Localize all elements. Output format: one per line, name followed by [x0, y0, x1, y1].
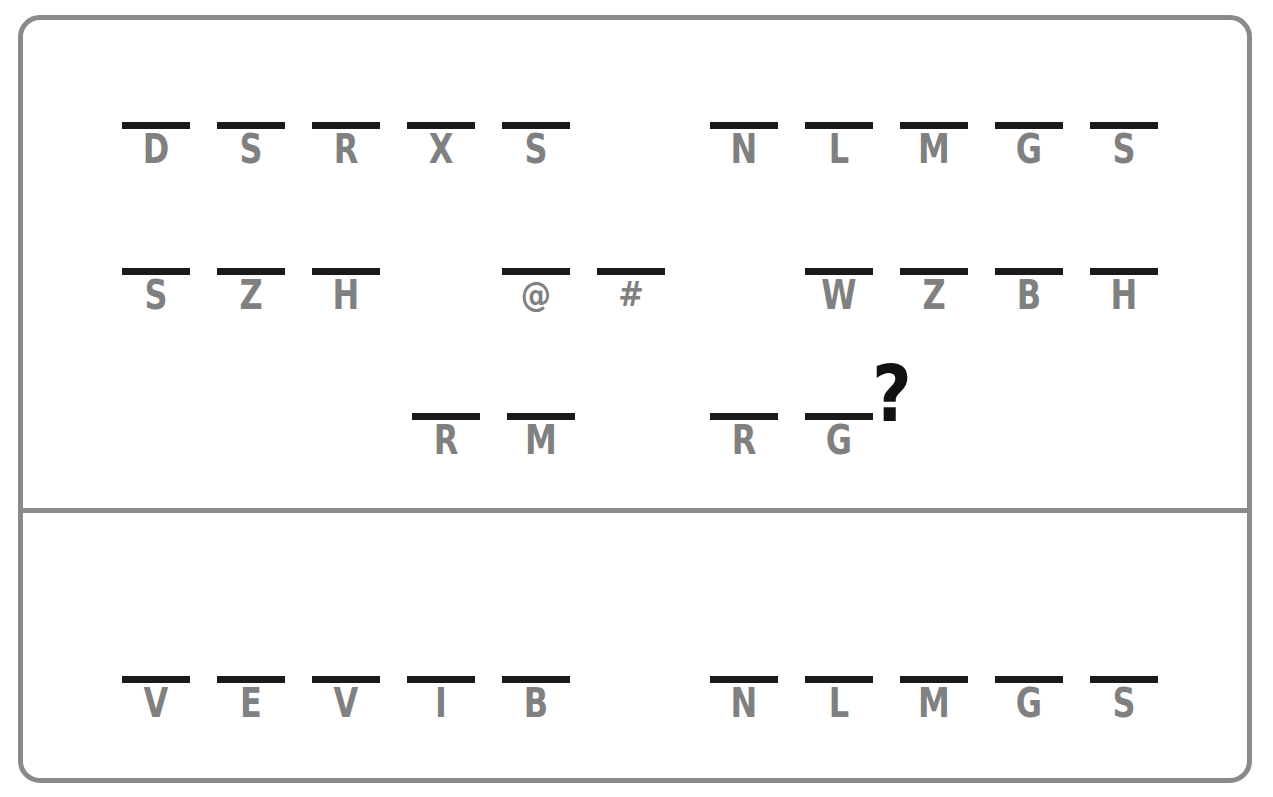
slot-r2-l4-empty: [407, 268, 475, 348]
slot-glyph: W: [812, 273, 866, 317]
slot-r1-r3[interactable]: M: [900, 122, 968, 202]
slot-glyph: B: [509, 681, 563, 725]
slot-r4-r5[interactable]: S: [1090, 676, 1158, 756]
slot-r4-r2[interactable]: L: [805, 676, 873, 756]
slot-r4-l5[interactable]: B: [502, 676, 570, 756]
puzzle-canvas: D S R X S N L: [0, 0, 1273, 797]
slot-r4-l3[interactable]: V: [312, 676, 380, 756]
slot-r1-l3[interactable]: R: [312, 122, 380, 202]
slot-r3-l3-empty: [312, 413, 380, 493]
slot-r3-l2-empty: [217, 413, 285, 493]
slot-r1-r2[interactable]: L: [805, 122, 873, 202]
slot-r1-r1[interactable]: N: [710, 122, 778, 202]
slot-row-1: D S R X S N L: [0, 122, 1273, 202]
slot-glyph: M: [907, 127, 961, 171]
slot-glyph: V: [129, 681, 183, 725]
slot-r2-l1[interactable]: S: [122, 268, 190, 348]
slot-row-2: S Z H @ #: [0, 268, 1273, 348]
slot-r4-r4[interactable]: G: [995, 676, 1063, 756]
slot-row-4: V E V I B N L: [0, 676, 1273, 756]
slot-glyph: M: [907, 681, 961, 725]
slot-r4-l2[interactable]: E: [217, 676, 285, 756]
slot-glyph: G: [812, 418, 866, 462]
slot-glyph: R: [717, 418, 771, 462]
slot-glyph: S: [1097, 127, 1151, 171]
slot-r3-l4[interactable]: R: [412, 413, 480, 493]
question-mark-icon: ?: [872, 355, 912, 433]
slot-r2-l5-at[interactable]: @: [502, 268, 570, 348]
slot-glyph: R: [419, 418, 473, 462]
slot-r4-r1[interactable]: N: [710, 676, 778, 756]
slot-glyph: S: [1097, 681, 1151, 725]
answer-section: V E V I B N L: [0, 513, 1273, 783]
slot-r2-l6-hash[interactable]: #: [597, 268, 665, 348]
slot-glyph: S: [129, 273, 183, 317]
slot-glyph: G: [1002, 127, 1056, 171]
slot-r3-r4-empty: [995, 413, 1063, 493]
slot-r1-l1[interactable]: D: [122, 122, 190, 202]
slot-glyph: E: [224, 681, 278, 725]
slot-glyph: S: [224, 127, 278, 171]
slot-glyph: M: [514, 418, 568, 462]
slot-r3-r5-empty: [1090, 413, 1158, 493]
slot-r2-r5[interactable]: H: [1090, 268, 1158, 348]
slot-r2-r3[interactable]: Z: [900, 268, 968, 348]
slot-glyph: L: [812, 681, 866, 725]
slot-row-3: R M R G: [0, 413, 1273, 493]
slot-glyph: R: [319, 127, 373, 171]
slot-r1-r5[interactable]: S: [1090, 122, 1158, 202]
slot-glyph: B: [1002, 273, 1056, 317]
slot-r1-l5[interactable]: S: [502, 122, 570, 202]
slot-r1-r4[interactable]: G: [995, 122, 1063, 202]
slot-r2-l3[interactable]: H: [312, 268, 380, 348]
slot-r4-l4[interactable]: I: [407, 676, 475, 756]
slot-r4-r3[interactable]: M: [900, 676, 968, 756]
slot-glyph: H: [319, 273, 373, 317]
slot-r3-l5[interactable]: M: [507, 413, 575, 493]
slot-r3-r2[interactable]: G: [805, 413, 873, 493]
slot-glyph: Z: [907, 273, 961, 317]
slot-r2-r4[interactable]: B: [995, 268, 1063, 348]
slot-glyph: Z: [224, 273, 278, 317]
slot-glyph: G: [1002, 681, 1056, 725]
slot-r3-r1[interactable]: R: [710, 413, 778, 493]
slot-r1-l2[interactable]: S: [217, 122, 285, 202]
question-section: D S R X S N L: [0, 15, 1273, 508]
slot-glyph: V: [319, 681, 373, 725]
slot-glyph: X: [414, 127, 468, 171]
hash-symbol-icon: #: [600, 273, 663, 317]
slot-r2-r2[interactable]: W: [805, 268, 873, 348]
slot-r1-l4[interactable]: X: [407, 122, 475, 202]
slot-r4-l1[interactable]: V: [122, 676, 190, 756]
slot-r3-l1-empty: [122, 413, 190, 493]
slot-glyph: L: [812, 127, 866, 171]
slot-glyph: N: [717, 127, 771, 171]
slot-glyph: N: [717, 681, 771, 725]
at-symbol-icon: @: [505, 273, 568, 317]
slot-glyph: I: [414, 681, 468, 725]
slot-glyph: H: [1097, 273, 1151, 317]
slot-glyph: D: [129, 127, 183, 171]
slot-r2-l2[interactable]: Z: [217, 268, 285, 348]
slot-r2-r1-empty: [710, 268, 778, 348]
slot-glyph: S: [509, 127, 563, 171]
